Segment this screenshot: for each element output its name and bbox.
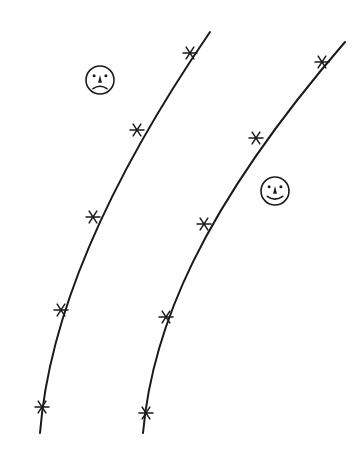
asterisk-marker-icon [183,47,197,59]
diagram-canvas [0,0,363,462]
sad-face-icon [86,66,114,94]
right-line-curve [143,42,345,433]
lines-layer [35,32,345,433]
left-line-curve [40,32,210,433]
asterisk-marker-icon [197,218,211,230]
asterisk-marker-icon [130,124,144,136]
asterisk-marker-icon [315,56,329,68]
left-line [35,32,210,433]
happy-face-icon [261,177,289,205]
faces-layer [86,66,289,205]
asterisk-marker-icon [249,132,263,144]
asterisk-marker-icon [86,211,100,223]
right-line [139,42,345,433]
